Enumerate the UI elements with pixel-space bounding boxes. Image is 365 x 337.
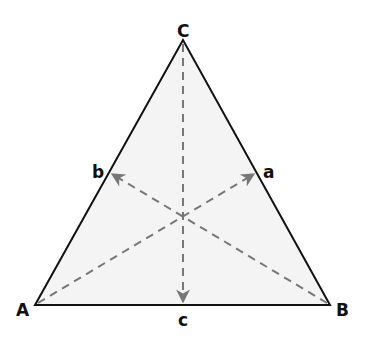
triangle-diagram: C A B a b c	[0, 0, 365, 337]
vertex-label-b: B	[336, 300, 349, 320]
midpoint-label-b: b	[92, 162, 104, 182]
midpoint-label-c: c	[178, 310, 188, 330]
midpoint-label-a: a	[263, 162, 274, 182]
vertex-label-a: A	[16, 300, 30, 320]
vertex-label-c: C	[177, 21, 189, 41]
